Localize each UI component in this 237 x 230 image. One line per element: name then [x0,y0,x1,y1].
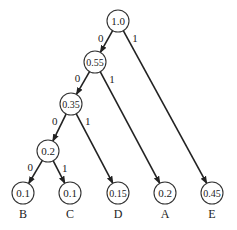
edge-bit-label: 1 [109,73,115,85]
tree-node: 0.45E [201,182,223,221]
leaf-symbol-label: D [114,207,123,221]
tree-node: 0.55 [84,51,106,73]
node-value: 0.2 [41,145,55,157]
edge-bit-label: 1 [85,115,91,127]
tree-node: 0.15D [107,182,129,221]
leaf-symbol-label: E [208,207,215,221]
tree-node: 0.1C [59,182,81,221]
edge-bit-label: 1 [62,162,68,174]
tree-node: 0.2 [37,140,59,162]
node-value: 0.15 [109,188,127,199]
huffman-tree: 01010101 1.00.550.350.20.1B0.1C0.15D0.2A… [0,0,237,230]
edge-n10-E [123,31,206,184]
leaf-symbol-label: B [19,207,27,221]
node-value: 0.35 [62,99,80,110]
edge-bit-label: 0 [98,32,104,44]
edge-n035-D [76,114,113,184]
node-value: 0.45 [203,188,221,199]
edge-bit-label: 0 [28,161,34,173]
node-value: 0.1 [16,187,30,199]
leaf-symbol-label: C [66,207,74,221]
edge-n055-A [100,72,160,184]
leaf-symbol-label: A [161,207,170,221]
node-value: 0.1 [63,187,77,199]
node-value: 0.55 [86,57,104,68]
tree-node: 0.1B [12,182,34,221]
tree-node: 1.0 [107,10,129,32]
node-value: 0.2 [158,187,172,199]
tree-node: 0.2A [154,182,176,221]
edge-bit-label: 1 [132,32,138,44]
edge-bit-label: 0 [75,72,81,84]
tree-node: 0.35 [60,93,82,115]
node-value: 1.0 [111,15,125,27]
edge-bit-label: 0 [52,115,58,127]
